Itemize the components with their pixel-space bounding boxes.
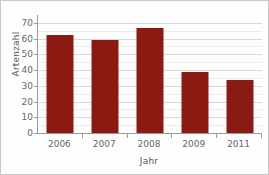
x-tick-mark bbox=[82, 134, 83, 138]
x-tick-label: 2008 bbox=[127, 139, 172, 149]
y-tick-label: 0 bbox=[9, 128, 33, 138]
bar-slot bbox=[217, 15, 262, 133]
x-tick-label: 2011 bbox=[216, 139, 261, 149]
y-tick-label: 40 bbox=[9, 65, 33, 75]
x-tick-mark bbox=[216, 134, 217, 138]
x-tick-mark bbox=[261, 134, 262, 138]
y-tick-mark bbox=[34, 102, 38, 103]
x-axis-tick-labels: 20062007200820092011 bbox=[37, 134, 261, 154]
y-tick-label: 30 bbox=[9, 81, 33, 91]
y-axis-tick-labels: 010203040506070 bbox=[9, 15, 33, 133]
x-tick-label: 2009 bbox=[171, 139, 216, 149]
bars-group bbox=[38, 15, 262, 133]
bar[interactable] bbox=[92, 40, 119, 133]
bar-slot bbox=[128, 15, 173, 133]
bar[interactable] bbox=[181, 72, 208, 133]
y-tick-mark bbox=[34, 117, 38, 118]
y-tick-label: 10 bbox=[9, 112, 33, 122]
bar[interactable] bbox=[136, 28, 163, 133]
x-tick-mark bbox=[171, 134, 172, 138]
bar[interactable] bbox=[47, 35, 74, 133]
x-tick-label: 2007 bbox=[82, 139, 127, 149]
x-axis-title: Jahr bbox=[37, 156, 261, 166]
y-tick-label: 50 bbox=[9, 49, 33, 59]
bar-chart-figure: Artenzahl 010203040506070 20062007200820… bbox=[0, 0, 269, 175]
bar-slot bbox=[83, 15, 128, 133]
plot-area bbox=[37, 15, 262, 134]
bar-slot bbox=[38, 15, 83, 133]
x-tick-mark bbox=[127, 134, 128, 138]
y-tick-label: 70 bbox=[9, 18, 33, 28]
y-tick-mark bbox=[34, 70, 38, 71]
y-tick-mark bbox=[34, 54, 38, 55]
y-tick-label: 20 bbox=[9, 97, 33, 107]
bar-slot bbox=[172, 15, 217, 133]
y-tick-mark bbox=[34, 86, 38, 87]
y-tick-mark bbox=[34, 23, 38, 24]
bar[interactable] bbox=[226, 80, 253, 133]
y-tick-mark bbox=[34, 39, 38, 40]
x-tick-label: 2006 bbox=[37, 139, 82, 149]
y-tick-label: 60 bbox=[9, 34, 33, 44]
